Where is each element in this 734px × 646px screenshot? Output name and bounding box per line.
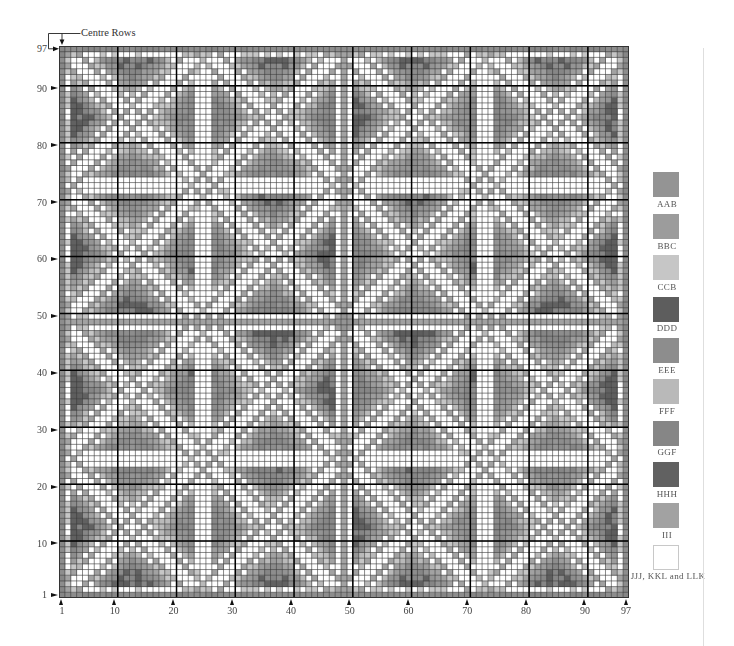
row-1-arrow-icon [51,593,58,597]
col-label-10: 10 [100,605,130,617]
row-label-80: 80 [12,140,47,152]
legend-label-ddd: DDD [621,323,713,334]
legend-label-eee: EEE [621,365,713,376]
row-80-arrow-icon [51,143,58,147]
row-90-arrow-icon [51,86,58,90]
legend-label-hhh: HHH [621,489,713,500]
legend-swatch-ddd [653,297,679,322]
col-label-90: 90 [570,605,600,617]
legend-swatch-fff [653,379,679,404]
legend-label-fff: FFF [621,406,713,417]
col-label-70: 70 [452,605,482,617]
col-label-20: 20 [159,605,189,617]
col-label-97: 97 [611,605,641,617]
col-label-1: 1 [47,605,77,617]
row-label-90: 90 [12,83,47,95]
legend-swatch-ccb [653,255,679,280]
row-label-60: 60 [12,253,47,265]
row-label-50: 50 [12,310,47,322]
row-20-arrow-icon [51,485,58,489]
row-60-arrow-icon [51,257,58,261]
row-label-1: 1 [12,589,47,601]
legend-label-ccb: CCB [621,282,713,293]
col-label-30: 30 [217,605,247,617]
row-label-40: 40 [12,367,47,379]
row-70-arrow-icon [51,200,58,204]
col-label-50: 50 [335,605,365,617]
col-label-80: 80 [511,605,541,617]
row-label-20: 20 [12,481,47,493]
row-label-30: 30 [12,424,47,436]
legend-swatch-ggf [653,421,679,446]
legend-label-bbc: BBC [621,241,713,252]
legend-swatch-jjj-kkl-llk [653,545,679,570]
col-1-arrow-icon [60,40,65,46]
page-margin-divider [703,48,704,646]
legend-label-aab: AAB [621,199,713,210]
row-50-arrow-icon [51,314,58,318]
legend-label-ggf: GGF [621,447,713,458]
pattern-chart-grid [59,46,629,598]
legend-swatch-bbc [653,214,679,239]
legend-label-jjj-kkl-llk: JJJ, KKL and LLK [622,571,714,582]
row-label-10: 10 [12,538,47,550]
row-10-arrow-icon [51,541,58,545]
col-label-60: 60 [394,605,424,617]
legend-label-iii: III [621,530,713,541]
legend-swatch-aab [653,172,679,197]
row-label-70: 70 [12,197,47,209]
row-30-arrow-icon [51,428,58,432]
row-40-arrow-icon [51,371,58,375]
legend-swatch-iii [653,503,679,528]
row-label-97: 97 [12,43,47,55]
legend-swatch-eee [653,338,679,363]
legend-swatch-hhh [653,462,679,487]
col-label-40: 40 [276,605,306,617]
